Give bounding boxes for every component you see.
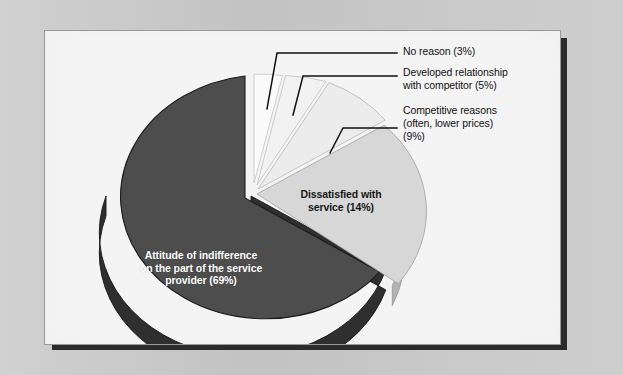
slice-label-attitude: Attitude of indifference on the part of … bbox=[101, 249, 301, 287]
callout-label-developed: Developed relationship with competitor (… bbox=[403, 66, 555, 92]
callout-label-competitive: Competitive reasons (often, lower prices… bbox=[403, 104, 555, 143]
pie-chart: Dissatisfied with service (14%) Attitude… bbox=[45, 31, 560, 344]
chart-panel: Dissatisfied with service (14%) Attitude… bbox=[44, 30, 561, 345]
callout-label-no-reason: No reason (3%) bbox=[403, 45, 555, 58]
slice-label-dissatisfied: Dissatisfied with service (14%) bbox=[271, 188, 411, 213]
